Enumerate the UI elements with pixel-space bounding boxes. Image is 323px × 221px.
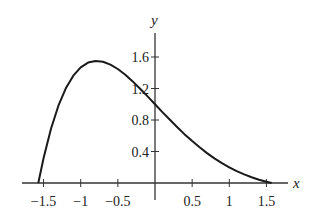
y-tick-label: 0.4: [132, 145, 150, 160]
x-tick-label: 1: [226, 194, 233, 209]
y-axis: 0.40.81.21.6: [132, 33, 160, 200]
y-tick-label: 0.8: [132, 113, 150, 128]
x-tick-label: −1: [73, 194, 88, 209]
x-tick-label: −0.5: [105, 194, 130, 209]
x-axis-label: x: [292, 175, 300, 191]
chart: −1.5−1−0.50.511.5 0.40.81.21.6 x y: [0, 0, 323, 221]
x-tick-label: 1.5: [258, 194, 276, 209]
y-axis-label: y: [149, 12, 158, 28]
y-tick-label: 1.6: [132, 50, 150, 65]
x-tick-label: −1.5: [31, 194, 56, 209]
x-tick-label: 0.5: [183, 194, 201, 209]
